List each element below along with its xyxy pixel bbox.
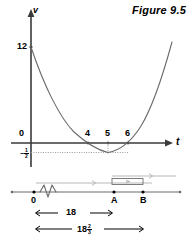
dimension-2-label: 18 2 3 xyxy=(77,224,92,235)
point-marker-a xyxy=(112,190,115,193)
figure-title: Figure 9.5 xyxy=(132,4,186,16)
dimension-1-label: 18 xyxy=(66,208,76,217)
velocity-curve xyxy=(31,42,172,153)
x-tick-label-4: 4 xyxy=(85,129,90,138)
min-value-denominator: 2 xyxy=(24,153,29,159)
origin-label: 0 xyxy=(19,129,24,138)
dimension-2-whole: 18 xyxy=(77,225,87,234)
velocity-curve-path xyxy=(31,42,172,153)
motion-path-group xyxy=(36,174,176,186)
v-axis-label: v xyxy=(33,6,38,15)
highlight-box-arrow xyxy=(126,181,130,183)
numberline-label-a: A xyxy=(111,196,118,205)
dimension-2-denominator: 3 xyxy=(87,229,92,235)
graph-guide-lines xyxy=(31,143,128,154)
t-axis-label: t xyxy=(176,137,179,147)
numberline-label-b: B xyxy=(140,196,147,205)
x-tick-label-6: 6 xyxy=(125,129,130,138)
figure-drawing xyxy=(0,0,192,243)
number-line-right-cap xyxy=(179,191,182,194)
min-value-label: − 1 2 xyxy=(20,148,29,159)
zigzag-path xyxy=(40,185,56,197)
number-line-left-cap xyxy=(11,191,14,194)
numberline-label-origin: 0 xyxy=(31,196,36,205)
point-marker-origin xyxy=(32,190,35,193)
number-line-group xyxy=(11,185,182,197)
point-marker-b xyxy=(141,190,144,193)
t-axis-arrowhead xyxy=(165,140,173,147)
dimension-2-fraction: 2 3 xyxy=(87,224,92,235)
graph-tick-marks xyxy=(29,47,128,145)
highlight-box xyxy=(112,179,143,185)
y-intercept-label: 12 xyxy=(17,42,27,51)
figure-container: Figure 9.5 v t 12 0 4 5 6 − 1 2 0 A B 18… xyxy=(0,0,192,243)
x-tick-label-5: 5 xyxy=(105,129,110,138)
graph-axes xyxy=(11,9,173,167)
min-value-fraction: 1 2 xyxy=(24,148,29,159)
